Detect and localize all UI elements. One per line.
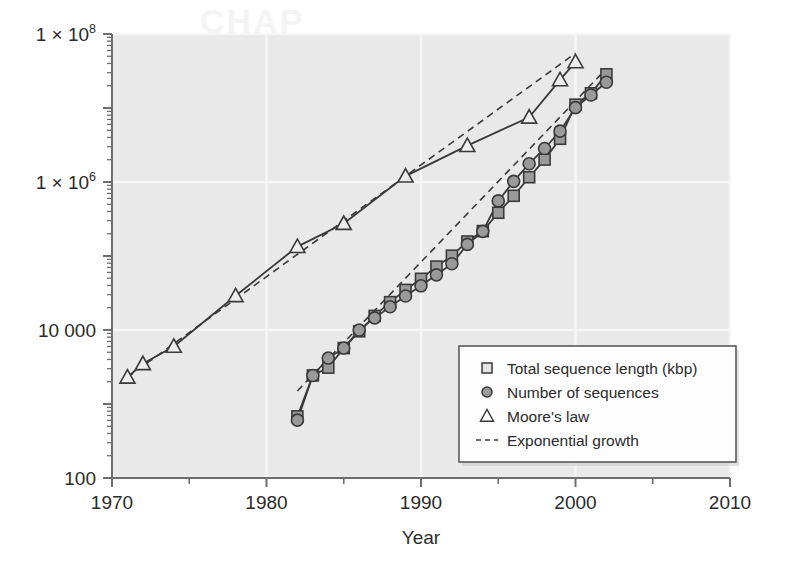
x-tick-label: 2010 [709, 492, 751, 513]
data-point-marker [493, 207, 504, 218]
y-tick-label: 1 × 106 [36, 170, 96, 193]
legend-entry-label[interactable]: Number of sequences [507, 384, 659, 401]
legend-entry-label[interactable]: Exponential growth [507, 432, 639, 449]
data-point-marker [430, 269, 442, 281]
data-point-marker [554, 125, 566, 137]
data-point-marker [508, 175, 520, 187]
data-point-marker [600, 76, 612, 88]
data-point-marker [291, 414, 303, 426]
y-tick-label: 1 × 108 [36, 22, 96, 45]
data-point-marker [570, 102, 582, 114]
data-point-marker [492, 195, 504, 207]
data-point-marker [477, 225, 489, 237]
data-point-marker [322, 352, 334, 364]
legend-marker-square [482, 363, 492, 373]
data-point-marker [585, 89, 597, 101]
y-axis-ticks [103, 34, 112, 478]
data-point-marker [338, 342, 350, 354]
data-point-marker [539, 154, 550, 165]
y-tick-label: 10 000 [38, 320, 96, 341]
legend-entry-label[interactable]: Moore's law [507, 408, 590, 425]
x-axis-title: Year [402, 527, 441, 548]
data-point-marker [415, 280, 427, 292]
data-point-marker [461, 238, 473, 250]
data-point-marker [307, 370, 319, 382]
data-point-marker [384, 301, 396, 313]
data-point-marker [508, 190, 519, 201]
y-tick-label: 100 [64, 468, 96, 489]
x-tick-label: 1980 [245, 492, 287, 513]
chart-legend[interactable]: Total sequence length (kbp)Number of seq… [459, 346, 739, 466]
chart-canvas: 1 × 1081 × 10610 000100 1970198019902000… [0, 0, 792, 587]
figure-root: CHAP 1 × 1081 × 10610 000100 19701980199… [0, 0, 792, 587]
data-point-marker [446, 258, 458, 270]
y-axis-tick-labels: 1 × 1081 × 10610 000100 [36, 22, 96, 489]
legend-marker-circle [482, 387, 492, 397]
x-tick-label: 1970 [91, 492, 133, 513]
x-axis-ticks [112, 478, 730, 487]
data-point-marker [524, 172, 535, 183]
x-tick-label: 2000 [554, 492, 596, 513]
data-point-marker [353, 324, 365, 336]
data-point-marker [539, 142, 551, 154]
x-tick-label: 1990 [400, 492, 442, 513]
data-point-marker [369, 312, 381, 324]
data-point-marker [400, 290, 412, 302]
legend-entry-label[interactable]: Total sequence length (kbp) [507, 360, 697, 377]
x-axis-tick-labels: 19701980199020002010 [91, 492, 751, 513]
data-point-marker [523, 158, 535, 170]
